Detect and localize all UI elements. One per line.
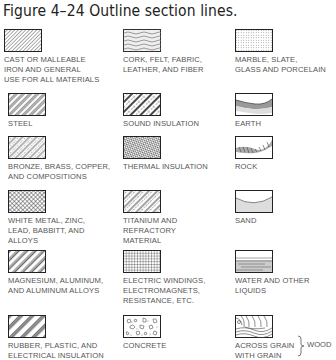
material-label: WHITE METAL, ZINC, LEAD, BABBITT, AND AL…	[8, 216, 85, 246]
steel-hatch-icon	[8, 93, 46, 116]
material-label: EARTH	[235, 119, 261, 129]
material-label: CAST OR MALLEABLE IRON AND GENERAL USE F…	[4, 55, 99, 85]
material-label: TITANIUM AND REFRACTORY MATERIAL	[123, 216, 177, 246]
titanium-hatch-icon	[123, 190, 161, 213]
material-label: RUBBER, PLASTIC, AND ELECTRICAL INSULATI…	[8, 341, 104, 360]
sound-insulation-icon	[123, 93, 161, 116]
wood-group-label: WOOD	[307, 340, 331, 349]
sand-icon	[235, 190, 273, 213]
material-label: SAND	[235, 216, 257, 226]
material-label: CORK, FELT, FABRIC, LEATHER, AND FIBER	[123, 55, 204, 75]
material-label: ROCK	[235, 162, 257, 172]
bronze-hatch-icon	[8, 136, 46, 159]
material-label: MARBLE, SLATE, GLASS AND PORCELAIN	[235, 55, 326, 75]
rock-icon	[235, 136, 273, 159]
water-icon	[235, 250, 273, 273]
cast-iron-hatch-icon	[4, 29, 42, 52]
material-label: CONCRETE	[123, 341, 166, 351]
material-label: BRONZE, BRASS, COPPER, AND COMPOSITIONS	[8, 162, 110, 182]
material-label: ACROSS GRAIN WITH GRAIN	[235, 341, 294, 360]
rubber-hatch-icon	[8, 315, 46, 338]
electric-windings-grid-icon	[123, 250, 161, 273]
magnesium-hatch-icon	[8, 250, 46, 273]
figure-title: Figure 4–24 Outline section lines.	[3, 2, 238, 20]
white-metal-crosshatch-icon	[8, 190, 46, 213]
material-label: ELECTRIC WINDINGS, ELECTROMAGNETS, RESIS…	[123, 276, 205, 306]
material-label: MAGNESIUM, ALUMINUM, AND ALUMINUM ALLOYS	[8, 276, 103, 296]
brace-icon	[297, 335, 307, 357]
earth-icon	[235, 93, 273, 116]
material-label: STEEL	[8, 119, 33, 129]
material-label: THERMAL INSULATION	[123, 162, 208, 172]
material-label: SOUND INSULATION	[123, 119, 199, 129]
cork-hatch-icon	[123, 29, 161, 52]
wood-grain-icon	[235, 315, 273, 338]
concrete-aggregate-icon	[123, 315, 161, 338]
thermal-insulation-icon	[123, 136, 161, 159]
material-label: WATER AND OTHER LIQUIDS	[235, 276, 310, 296]
marble-stipple-icon	[235, 29, 273, 52]
